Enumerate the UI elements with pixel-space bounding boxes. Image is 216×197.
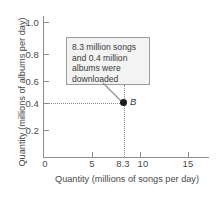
y-tick-label-3: 0.6: [25, 76, 44, 87]
x-tick-label-10: 10: [138, 158, 149, 169]
x-tick-label-0: 0: [42, 158, 47, 169]
x-axis-title: Quantity (millions of songs per day): [43, 174, 211, 184]
x-tick-label-5: 5: [89, 158, 94, 169]
guide-line-vertical: [124, 103, 125, 157]
x-tick-15: [188, 152, 189, 157]
y-axis-line: [43, 16, 44, 158]
y-tick-3: [44, 81, 49, 82]
y-axis-title: Quantity (millions of albums per day): [17, 17, 27, 167]
data-point-b-label: B: [130, 96, 136, 107]
y-tick-5: [44, 130, 49, 131]
y-tick-label-5: 0.2: [25, 125, 44, 136]
y-tick-1: [44, 22, 49, 23]
x-tick-10: [140, 152, 141, 157]
y-tick-2: [44, 54, 49, 55]
chart-figure: 1.0 0.8 0.6 0.4 0.2 0 5 8.3 10 15 Quanti…: [0, 0, 216, 197]
x-tick-label-15: 15: [183, 158, 194, 169]
x-tick-label-8-3: 8.3: [116, 158, 130, 169]
y-tick-label-2: 0.8: [25, 49, 44, 60]
x-tick-5: [92, 152, 93, 157]
annotation-text: 8.3 million songs and 0.4 million albums…: [72, 42, 144, 84]
y-tick-label-1: 1.0: [25, 17, 44, 28]
annotation-box: 8.3 million songs and 0.4 million albums…: [66, 37, 150, 85]
y-tick-label-4: 0.4: [25, 98, 44, 109]
